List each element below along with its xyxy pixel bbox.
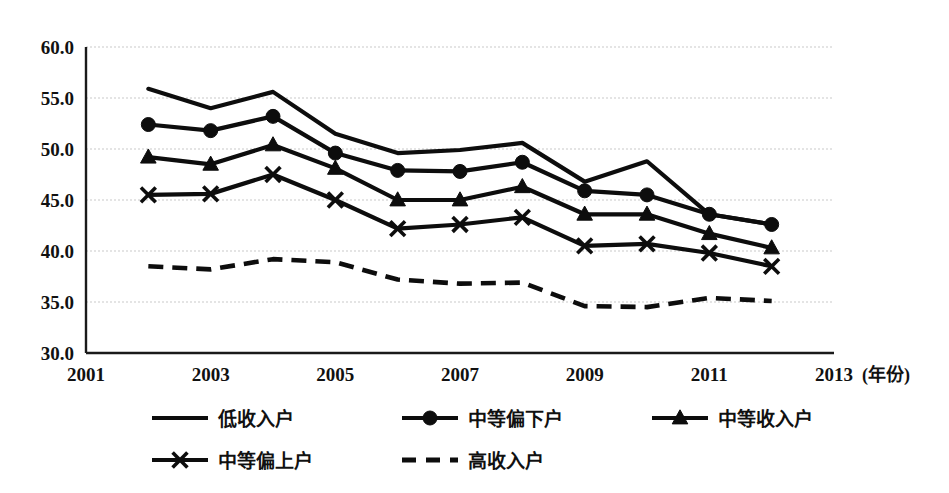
marker-circle bbox=[391, 163, 405, 177]
legend-label: 低收入户 bbox=[217, 408, 294, 430]
series-4 bbox=[141, 167, 779, 274]
marker-circle bbox=[328, 146, 342, 160]
series-group bbox=[141, 89, 780, 307]
chart-container: 60.055.050.045.040.035.030.0 20012003200… bbox=[0, 0, 949, 493]
legend-label: 中等收入户 bbox=[718, 408, 813, 430]
x-axis-tick-label: 2009 bbox=[566, 364, 604, 385]
legend-item-1[interactable]: 低收入户 bbox=[152, 408, 294, 430]
x-axis-title-label: (年份) bbox=[862, 364, 910, 386]
legend-label: 高收入户 bbox=[468, 450, 544, 472]
y-axis-tick-labels: 60.055.050.045.040.035.030.0 bbox=[41, 37, 74, 364]
x-axis-tick-labels: 2001200320052007200920112013 bbox=[67, 364, 853, 385]
y-axis-tick-label: 40.0 bbox=[41, 241, 74, 262]
x-axis-tick-label: 2011 bbox=[691, 364, 728, 385]
legend-label: 中等偏上户 bbox=[218, 450, 313, 472]
marker-circle bbox=[765, 217, 779, 231]
y-axis-tick-label: 50.0 bbox=[41, 139, 74, 160]
marker-circle bbox=[423, 411, 437, 425]
y-axis-tick-label: 30.0 bbox=[41, 343, 74, 364]
x-axis-tick-label: 2003 bbox=[192, 364, 230, 385]
x-axis-tick-label: 2013 bbox=[815, 364, 853, 385]
y-axis-tick-label: 60.0 bbox=[41, 37, 74, 58]
legend-item-2[interactable]: 中等偏下户 bbox=[402, 408, 563, 430]
marker-circle bbox=[204, 124, 218, 138]
marker-circle bbox=[640, 188, 654, 202]
marker-circle bbox=[515, 155, 529, 169]
legend-item-3[interactable]: 中等收入户 bbox=[652, 408, 813, 430]
marker-circle bbox=[702, 207, 716, 221]
line-chart: 60.055.050.045.040.035.030.0 20012003200… bbox=[0, 0, 949, 493]
series-3 bbox=[141, 137, 780, 254]
marker-circle bbox=[578, 184, 592, 198]
x-axis-tick-label: 2001 bbox=[67, 364, 105, 385]
y-axis-tick-label: 35.0 bbox=[41, 292, 74, 313]
marker-circle bbox=[141, 118, 155, 132]
y-axis-tick-label: 55.0 bbox=[41, 88, 74, 109]
series-polyline bbox=[148, 259, 771, 307]
x-axis-tick-label: 2007 bbox=[441, 364, 480, 385]
legend-item-5[interactable]: 高收入户 bbox=[402, 450, 544, 472]
marker-circle bbox=[266, 109, 280, 123]
x-axis-title: (年份) bbox=[862, 364, 910, 386]
x-axis-tick-label: 2005 bbox=[316, 364, 354, 385]
marker-circle bbox=[453, 164, 467, 178]
legend-item-4[interactable]: 中等偏上户 bbox=[152, 450, 313, 472]
marker-triangle bbox=[515, 179, 531, 193]
legend-label: 中等偏下户 bbox=[468, 408, 563, 430]
legend: 低收入户中等偏下户中等收入户中等偏上户高收入户 bbox=[152, 408, 813, 472]
series-2 bbox=[141, 109, 778, 231]
series-5 bbox=[148, 259, 771, 307]
marker-triangle bbox=[265, 137, 281, 151]
y-axis-tick-label: 45.0 bbox=[41, 190, 74, 211]
